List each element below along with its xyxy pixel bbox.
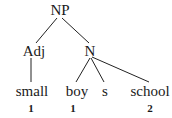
node-n: N [85, 44, 96, 59]
index-boy: 1 [70, 103, 76, 114]
leaf-boy: boy [66, 84, 89, 99]
index-school: 2 [147, 103, 153, 114]
index-small: 1 [28, 103, 34, 114]
leaf-school: school [130, 84, 169, 99]
node-np: NP [50, 3, 69, 18]
tree-edges [0, 0, 172, 118]
node-adj: Adj [23, 44, 46, 59]
leaf-s: s [102, 84, 108, 99]
leaf-small: small [16, 84, 49, 99]
